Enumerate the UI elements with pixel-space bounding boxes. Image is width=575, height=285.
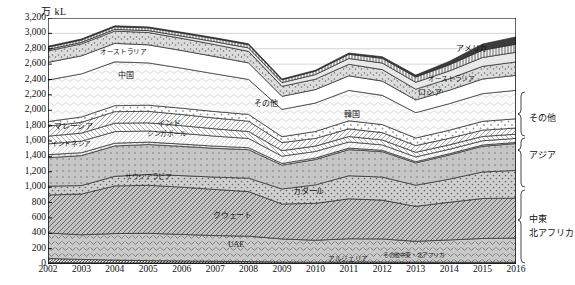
y-axis-tick-label: 200 (32, 244, 46, 254)
x-axis-tick-label: 2011 (340, 265, 359, 275)
series-inline-label: サウジアラビア (125, 174, 172, 181)
series-inline-label: シンガポール (147, 131, 187, 138)
series-inline-label: オーストラリア (428, 76, 475, 83)
y-axis-tick-label: 600 (32, 213, 46, 223)
series-inline-label: オーストラリア (100, 49, 147, 56)
y-axis-tick-label: 1,000 (25, 182, 46, 192)
series-inline-label: マレーシア (54, 123, 93, 131)
y-axis-tick-label: 2,600 (25, 59, 46, 69)
series-inline-label: インドネシア (51, 141, 91, 148)
y-axis-tick-label: 400 (32, 229, 46, 239)
series-inline-label: アメリカ (456, 45, 487, 53)
x-axis-tick-label: 2002 (39, 265, 58, 275)
y-axis-tick-label: 1,800 (25, 121, 46, 131)
y-axis-tick-label: 1,400 (25, 152, 46, 162)
x-axis-tick-label: 2010 (306, 265, 325, 275)
x-axis-tick-label: 2007 (206, 265, 225, 275)
series-inline-label: アルジェリア (328, 256, 368, 263)
group-label: 中東 (529, 214, 547, 225)
group-label: その他 (529, 113, 556, 124)
series-inline-label: 韓国 (344, 111, 360, 119)
right-group-labels: その他アジア中東北アフリカ (518, 18, 575, 264)
chart-root: 万 kL 3,2003,0002,8002,6002,4002,2002,000… (0, 0, 575, 285)
x-axis-tick-label: 2014 (440, 265, 459, 275)
x-axis-tick-label: 2009 (273, 265, 292, 275)
series-inline-label: 中国 (118, 72, 134, 80)
y-axis-tick-label: 1,200 (25, 167, 46, 177)
series-inline-label: クウェート (213, 212, 252, 220)
x-axis-tick-label: 2003 (72, 265, 91, 275)
y-axis-tick-label: 2,400 (25, 75, 46, 85)
series-inline-label: その他 (254, 100, 277, 108)
y-axis-tick-label: 800 (32, 198, 46, 208)
y-axis-tick-label: 2,000 (25, 106, 46, 116)
x-axis-tick-label: 2013 (406, 265, 425, 275)
y-axis-tick-label: 3,000 (25, 29, 46, 39)
y-axis-tick-label: 1,600 (25, 136, 46, 146)
group-label: 北アフリカ (529, 228, 574, 239)
series-inline-label: インド (157, 120, 180, 128)
x-axis-tick-label: 2004 (105, 265, 124, 275)
y-axis-tick-label: 3,200 (25, 13, 46, 23)
area-bands (48, 26, 516, 264)
group-label: アジア (529, 150, 556, 161)
x-axis-tick-label: 2005 (139, 265, 158, 275)
x-axis-tick-label: 2006 (172, 265, 191, 275)
series-inline-label: カタール (293, 188, 324, 196)
plot-area: オーストラリア中国マレーシアインドネシアインドシンガポールサウジアラビアクウェー… (48, 18, 516, 264)
x-axis-tick-label: 2016 (507, 265, 526, 275)
x-axis-tick-label: 2008 (239, 265, 258, 275)
series-inline-label: その他中東・北アフリカ (383, 253, 445, 259)
series-inline-label: ロシア (418, 89, 441, 97)
y-axis-tick-label: 2,200 (25, 90, 46, 100)
y-axis-tick-labels: 3,2003,0002,8002,6002,4002,2002,0001,800… (0, 18, 46, 264)
series-inline-label: UAE (228, 241, 244, 249)
y-axis-tick-label: 2,800 (25, 44, 46, 54)
x-axis-tick-label: 2012 (373, 265, 392, 275)
x-axis-tick-labels: 2002200320042005200620072008200920102011… (48, 265, 516, 281)
x-axis-tick-label: 2015 (473, 265, 492, 275)
